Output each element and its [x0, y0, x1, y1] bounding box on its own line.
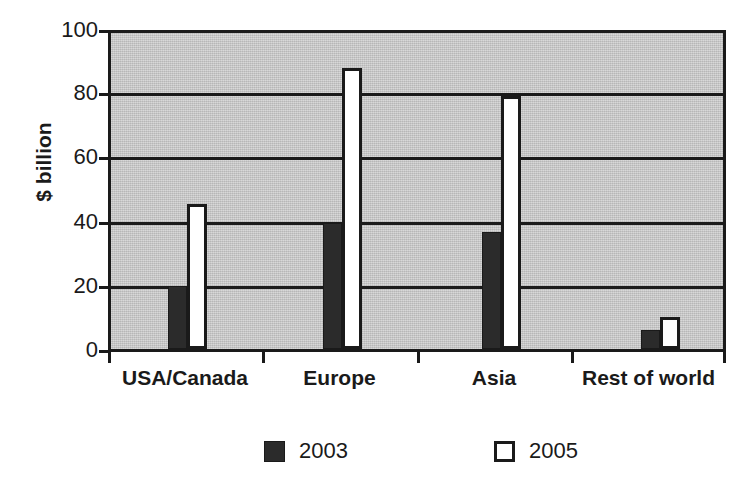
bar-2003-rest-of-world — [641, 330, 660, 349]
y-tick-label-60: 60 — [40, 146, 98, 168]
bar-chart: $ billion 100 80 60 40 20 0 — [0, 0, 753, 495]
x-tick-mark-2 — [417, 352, 420, 363]
y-tick-mark-80 — [99, 93, 108, 96]
y-tick-mark-40 — [99, 222, 108, 225]
x-label-rest-of-world: Rest of world — [571, 366, 726, 390]
bar-2003-asia — [482, 232, 501, 349]
legend-entry-2005: 2005 — [494, 440, 578, 462]
x-tick-mark-1 — [262, 352, 265, 363]
y-tick-mark-100 — [99, 30, 108, 33]
bar-2005-rest-of-world — [660, 317, 680, 349]
y-tick-mark-60 — [99, 157, 108, 160]
x-label-asia: Asia — [417, 366, 571, 390]
gridline-60 — [111, 157, 723, 160]
bar-2003-usa-canada — [168, 286, 187, 349]
y-tick-label-40: 40 — [40, 211, 98, 233]
y-tick-mark-20 — [99, 286, 108, 289]
legend-label-2003: 2003 — [299, 440, 348, 462]
legend: 2003 2005 — [0, 440, 753, 480]
bar-2003-europe — [323, 223, 342, 349]
y-tick-label-80: 80 — [40, 82, 98, 104]
gridline-80 — [111, 93, 723, 96]
bar-2005-asia — [501, 96, 521, 349]
x-label-europe: Europe — [262, 366, 417, 390]
x-tick-mark-0 — [108, 352, 111, 363]
x-tick-mark-3 — [571, 352, 574, 363]
x-label-usa-canada: USA/Canada — [108, 366, 262, 390]
y-tick-mark-0 — [99, 350, 108, 353]
hollow-square-icon — [494, 441, 515, 462]
legend-label-2005: 2005 — [529, 440, 578, 462]
bar-2005-europe — [342, 68, 362, 349]
y-tick-label-20: 20 — [40, 275, 98, 297]
plot-area — [108, 30, 726, 352]
bar-2005-usa-canada — [187, 204, 207, 349]
legend-entry-2003: 2003 — [264, 440, 348, 462]
filled-square-icon — [264, 441, 285, 462]
x-tick-mark-4 — [723, 352, 726, 363]
y-tick-label-0: 0 — [40, 339, 98, 361]
y-tick-label-100: 100 — [40, 19, 98, 41]
y-axis-ticks: 100 80 60 40 20 0 — [36, 0, 98, 495]
